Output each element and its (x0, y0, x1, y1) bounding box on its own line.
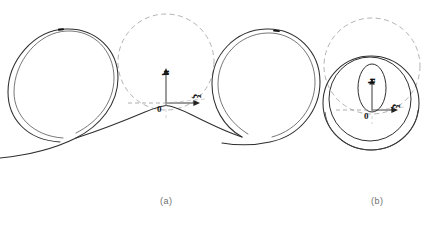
origin-label-a: 0 (157, 105, 162, 114)
xi-axis-label-b: ξ (391, 104, 401, 108)
origin-label-b: 0 (364, 112, 369, 121)
trochoid-ascend-right (166, 106, 242, 138)
loop-node-marker-a2 (274, 31, 279, 32)
eta-axis-label-a: η (162, 70, 172, 76)
xi-axis-label-a: ξ (192, 94, 202, 98)
eta-axis-label-b: η (368, 78, 378, 84)
trochoid-left-outer (0, 29, 118, 158)
outer-trochoid-b-companion (325, 110, 418, 150)
panel-a-graphic (0, 14, 320, 158)
panel-caption-b: (b) (371, 196, 384, 206)
panel-b-graphic (323, 18, 420, 150)
construction-line-a-right (166, 99, 205, 103)
panel-caption-a: (a) (160, 196, 173, 206)
xi-axis-arrowhead-a (193, 100, 200, 106)
trochoid-right-outer (212, 29, 320, 145)
outer-trochoid-b (323, 56, 419, 150)
trochoid-right-inner (218, 33, 315, 137)
figure-container: η ξ 0 η ξ 0 (a) (b) (0, 0, 434, 226)
middle-trochoid-b (329, 57, 411, 141)
trochoid-descend-left (76, 106, 166, 139)
